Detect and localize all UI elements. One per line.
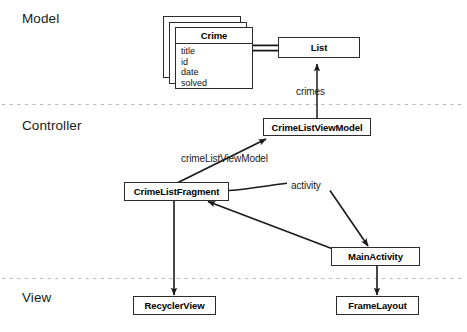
crime-field-list: title id date solved	[176, 44, 252, 90]
edge-label-crimes: crimes	[296, 86, 325, 97]
recycler-view-box[interactable]: RecyclerView	[133, 296, 216, 315]
crime-field: solved	[181, 78, 252, 89]
layer-label-model: Model	[22, 11, 59, 26]
crime-list-fragment-box[interactable]: CrimeListFragment	[124, 182, 229, 201]
mvc-architecture-diagram: Crime : thick double-stroke association …	[0, 0, 467, 332]
crime-field: title	[181, 46, 252, 57]
edge-label-activity: activity	[291, 180, 321, 191]
layer-label-controller: Controller	[22, 118, 82, 133]
crime-class-name: Crime	[176, 28, 252, 44]
crime-class-box[interactable]: Crime title id date solved	[175, 27, 253, 89]
crime-field: date	[181, 67, 252, 78]
crime-field: id	[181, 57, 252, 68]
main-activity-box[interactable]: MainActivity	[331, 247, 420, 266]
edge-fragment-to-activity	[229, 183, 368, 246]
layer-label-view: View	[22, 290, 51, 305]
crime-list-view-model-box[interactable]: CrimeListViewModel	[263, 118, 371, 136]
frame-layout-box[interactable]: FrameLayout	[336, 296, 419, 315]
edge-label-crime-list-view-model: crimeListViewModel	[181, 153, 268, 164]
edge-activity-to-fragment	[208, 202, 333, 250]
list-box[interactable]: List	[278, 37, 360, 58]
